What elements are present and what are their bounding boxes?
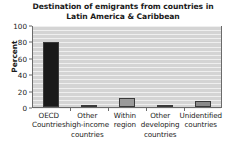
x-axis-category-label-line: Within <box>109 111 141 120</box>
gridline <box>33 51 221 52</box>
y-axis-tick-label: 0 <box>0 104 29 113</box>
gridline <box>33 88 221 89</box>
bar <box>81 105 97 107</box>
y-axis-tick-mark <box>29 26 32 27</box>
x-axis-category-label: Otherhigh-incomecountries <box>66 111 110 145</box>
plot-area <box>32 26 222 108</box>
y-axis-tick-label: 80 <box>0 38 29 47</box>
x-axis-category-label-line: Other <box>141 111 180 120</box>
x-axis-tick-mark <box>108 108 109 111</box>
x-axis-category-label: Otherdevelopingcountries <box>141 111 180 145</box>
chart-title-line-1: Destination of emigrants from countries … <box>32 2 213 11</box>
bar <box>195 101 211 107</box>
y-axis-tick-mark <box>29 75 32 76</box>
x-axis-category-label-line: developing <box>141 120 180 129</box>
y-axis-tick-label: 60 <box>0 54 29 63</box>
gridline <box>33 59 221 60</box>
y-axis-tick-label: 20 <box>0 87 29 96</box>
gridline <box>33 83 221 84</box>
bar <box>119 98 135 107</box>
x-axis-tick-labels: OECDCountriesOtherhigh-incomecountriesWi… <box>32 111 222 145</box>
x-axis-category-label-line: OECD <box>32 111 66 120</box>
y-axis-tick-mark <box>29 91 32 92</box>
gridline <box>33 55 221 56</box>
gridline <box>33 26 221 27</box>
gridline <box>33 108 221 109</box>
gridline <box>33 67 221 68</box>
x-axis-category-label: Unidentifiedcountries <box>180 111 222 145</box>
gridline <box>33 30 221 31</box>
gridline <box>33 63 221 64</box>
y-axis-tick-mark <box>29 42 32 43</box>
x-axis-tick-mark <box>146 108 147 111</box>
x-axis-category-label-line: Other <box>66 111 110 120</box>
x-axis-category-label-line: countries <box>66 130 110 139</box>
gridline <box>33 75 221 76</box>
bar-chart: Destination of emigrants from countries … <box>0 0 246 145</box>
bar <box>43 42 59 107</box>
chart-title: Destination of emigrants from countries … <box>16 2 230 21</box>
gridline <box>33 96 221 97</box>
gridline <box>33 38 221 39</box>
x-axis-category-label: Withinregion <box>109 111 141 145</box>
x-axis-category-label-line: high-income <box>66 120 110 129</box>
chart-title-line-2: Latin America & Caribbean <box>16 12 230 22</box>
x-axis-category-label-line: countries <box>141 130 180 139</box>
gridline <box>33 92 221 93</box>
gridline <box>33 34 221 35</box>
x-axis-tick-mark <box>70 108 71 111</box>
x-axis-category-label-line: Unidentified <box>180 111 222 120</box>
y-axis-tick-mark <box>29 108 32 109</box>
gridline <box>33 79 221 80</box>
y-axis-tick-label: 100 <box>0 22 29 31</box>
gridline <box>33 47 221 48</box>
x-axis-category-label-line: countries <box>180 120 222 129</box>
x-axis-tick-mark <box>184 108 185 111</box>
x-axis-category-label: OECDCountries <box>32 111 66 145</box>
y-axis-tick-mark <box>29 58 32 59</box>
gridline <box>33 71 221 72</box>
x-axis-category-label-line: Countries <box>32 120 66 129</box>
x-axis-category-label-line: region <box>109 120 141 129</box>
y-axis-tick-labels: 020406080100 <box>0 0 29 145</box>
y-axis-tick-label: 40 <box>0 71 29 80</box>
bar <box>157 105 173 107</box>
gridline <box>33 42 221 43</box>
